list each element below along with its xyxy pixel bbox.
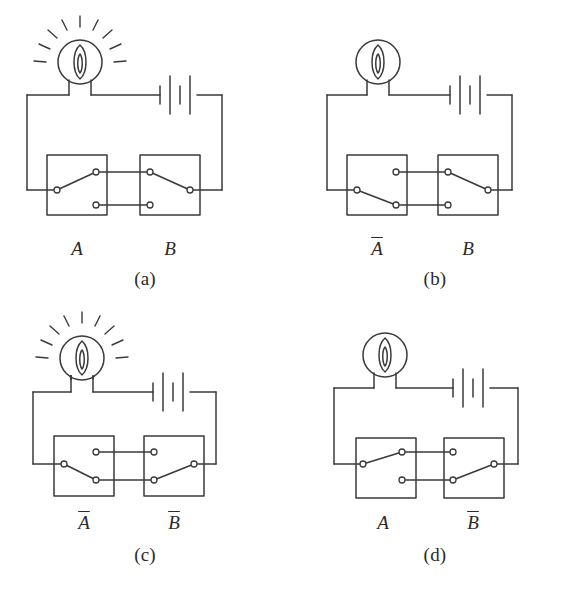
panel-caption-b: (b) <box>290 268 580 290</box>
battery-icon <box>153 373 183 411</box>
switch-label-left-c: A <box>64 512 104 534</box>
circuit-panel-a: A B (a) <box>0 0 290 300</box>
switch-box-right <box>444 438 504 498</box>
lamp-envelope-icon <box>58 40 102 84</box>
switch-label-left-a: A <box>57 238 97 260</box>
circuit-panel-b: A B (b) <box>290 0 580 300</box>
switch-label-right-d: B <box>453 512 493 534</box>
switch-blade-right <box>154 464 194 480</box>
switch-blade-right <box>453 464 494 480</box>
switch-label-right-a: B <box>150 238 190 260</box>
battery-icon <box>453 369 483 407</box>
lamp-envelope-icon <box>356 40 400 84</box>
circuit-panel-d: A B (d) <box>290 300 580 600</box>
switch-label-right-c: B <box>154 512 194 534</box>
lamp-envelope-icon <box>60 336 104 380</box>
terminal-nodes <box>54 169 193 208</box>
switch-blade-right <box>448 172 488 190</box>
lamp-filament-inner-icon <box>376 54 381 73</box>
switch-label-left-b: A <box>357 238 397 260</box>
panel-caption-a: (a) <box>0 268 290 290</box>
lamp-filament-icon <box>74 45 86 79</box>
panel-caption-c: (c) <box>0 544 290 566</box>
terminal-nodes <box>360 449 497 483</box>
panel-caption-d: (d) <box>290 544 580 566</box>
circuit-diagram-a <box>0 0 290 300</box>
switch-label-left-d: A <box>363 512 403 534</box>
switch-blade-right <box>150 172 190 190</box>
terminal-nodes <box>354 169 491 208</box>
circuit-diagram-b <box>290 0 580 300</box>
lamp-filament-inner-icon <box>80 350 85 369</box>
switch-blade-left <box>57 172 96 190</box>
lamp-filament-icon <box>379 338 391 372</box>
circuit-panel-c: A B (c) <box>0 300 290 600</box>
battery-icon <box>160 76 190 114</box>
switch-blade-left <box>64 464 96 480</box>
lamp-filament-icon <box>372 45 384 79</box>
terminal-nodes <box>61 449 197 483</box>
lamp-filament-inner-icon <box>78 54 83 73</box>
lamp-base-icon <box>71 376 93 378</box>
figure-sheet: A B (a) <box>0 0 580 600</box>
lamp-filament-icon <box>76 341 88 375</box>
switch-blade-left <box>357 190 396 205</box>
switch-box-left <box>356 438 416 498</box>
lamp-filament-inner-icon <box>383 347 388 366</box>
battery-icon <box>450 76 480 114</box>
lamp-envelope-icon <box>363 333 407 377</box>
switch-blade-left <box>363 452 402 464</box>
switch-label-right-b: B <box>448 238 488 260</box>
